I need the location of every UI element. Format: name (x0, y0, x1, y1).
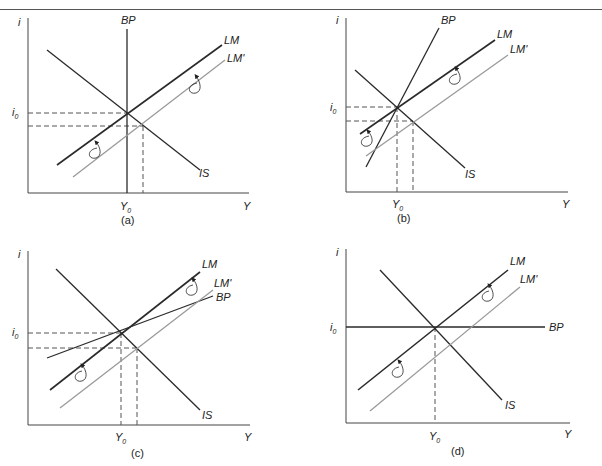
lm-label: LM (224, 34, 240, 46)
shift-arrow-icon (189, 76, 200, 93)
is-label: IS (199, 167, 210, 179)
lm-prime-curve (370, 287, 520, 411)
is-curve (56, 269, 200, 410)
is-label: IS (505, 399, 516, 411)
shift-arrow-icon (89, 142, 100, 158)
lm-curve (358, 270, 508, 390)
shift-arrow-icon (482, 285, 493, 301)
x-axis-label: Y (564, 428, 572, 440)
shift-arrow-icon (75, 365, 86, 381)
bp-curve (366, 28, 439, 167)
y0-label: Y0 (392, 198, 403, 212)
lm-prime-curve (73, 60, 225, 177)
is-label: IS (465, 168, 476, 180)
lm-label: LM (510, 255, 526, 267)
panel-caption: (b) (397, 212, 410, 224)
is-label: IS (202, 409, 213, 421)
y0-label: Y0 (429, 430, 440, 444)
lm-curve (57, 45, 222, 165)
y-axis-label: i (18, 16, 21, 28)
panel-caption: (c) (131, 447, 144, 459)
is-curve (355, 70, 465, 168)
lm-prime-curve (366, 55, 508, 156)
shift-arrow-icon (361, 131, 372, 146)
panel-b: i Y BP LM LM' IS i0 Y0 (b) (330, 14, 570, 224)
lm-label: LM (497, 28, 513, 40)
lm-prime-label: LM' (214, 277, 232, 289)
i0-label: i0 (12, 106, 18, 120)
y0-label: Y0 (115, 431, 126, 445)
lm-prime-label: LM' (520, 273, 538, 285)
panel-caption: (d) (451, 445, 464, 457)
shift-arrow-icon (392, 361, 403, 377)
y-axis-label: i (18, 248, 21, 260)
i0-label: i0 (330, 101, 336, 115)
lm-prime-label: LM' (510, 43, 528, 55)
panel-caption: (a) (121, 214, 134, 226)
y-axis-label: i (336, 246, 339, 258)
bp-label: BP (549, 321, 564, 333)
y0-label: Y0 (120, 200, 131, 214)
bp-label: BP (121, 14, 136, 26)
panel-c: i Y LM LM' BP IS i0 Y0 (c) (12, 248, 252, 459)
panel-a: i Y BP LM LM' IS i0 Y0 (a) (12, 14, 251, 226)
x-axis-label: Y (244, 431, 252, 443)
bp-label: BP (441, 14, 456, 26)
bp-label: BP (216, 291, 231, 303)
lm-prime-label: LM' (227, 52, 245, 64)
y-axis-label: i (336, 14, 339, 26)
x-axis-label: Y (562, 198, 570, 210)
lm-label: LM (202, 258, 218, 270)
is-curve (47, 50, 200, 170)
i0-label: i0 (330, 321, 336, 335)
lm-curve (50, 272, 200, 390)
x-axis-label: Y (243, 200, 251, 212)
is-lm-bp-figure: i Y BP LM LM' IS i0 Y0 (a) i Y (0, 0, 602, 466)
panel-d: i Y LM LM' BP IS i0 Y0 (d) (330, 246, 572, 457)
i0-label: i0 (12, 326, 18, 340)
lm-curve (360, 40, 495, 134)
